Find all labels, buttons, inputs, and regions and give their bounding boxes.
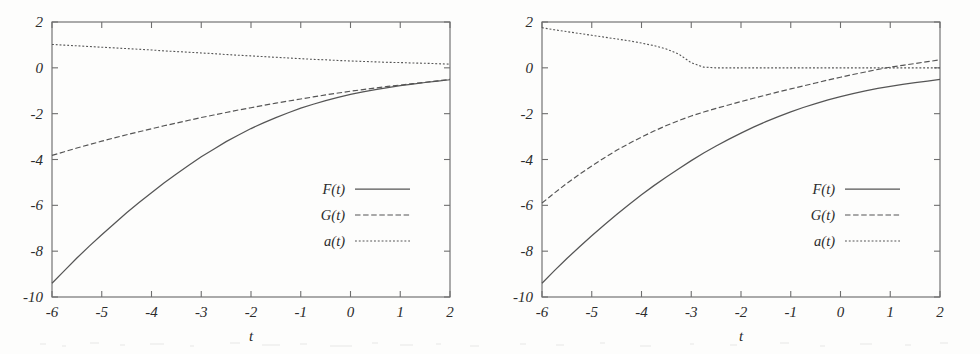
x-tick-label: -4 [145, 304, 158, 320]
x-tick-label: -2 [245, 304, 258, 320]
x-tick-label: 0 [347, 304, 355, 320]
y-tick-label: -8 [31, 243, 44, 259]
y-tick-label: -2 [31, 106, 44, 122]
x-tick-label: -2 [735, 304, 748, 320]
chart-panel-right: -6-5-4-3-2-101220-2-4-6-8-10tF(t)G(t)a(t… [490, 0, 980, 354]
curve-Gt [542, 60, 940, 203]
y-tick-label: -8 [521, 243, 534, 259]
y-tick-label: 0 [526, 60, 534, 76]
plot-right: -6-5-4-3-2-101220-2-4-6-8-10tF(t)G(t)a(t… [490, 0, 980, 354]
y-tick-label: -10 [23, 289, 43, 305]
x-tick-label: 2 [446, 304, 454, 320]
x-tick-label: -3 [195, 304, 208, 320]
x-tick-label: -6 [46, 304, 59, 320]
legend-label-Ft: F(t) [811, 181, 835, 198]
plot-frame [52, 22, 450, 297]
y-tick-label: -6 [521, 197, 534, 213]
x-tick-label: 1 [887, 304, 895, 320]
legend-label-Ft: F(t) [321, 181, 345, 198]
x-tick-label: -1 [785, 304, 798, 320]
x-tick-label: -3 [685, 304, 698, 320]
curve-Gt [52, 79, 450, 155]
y-tick-label: -2 [521, 106, 534, 122]
x-tick-label: 1 [397, 304, 405, 320]
curve-at [542, 28, 940, 68]
curve-at [52, 44, 450, 64]
y-tick-label: 2 [526, 14, 534, 30]
x-tick-label: -5 [586, 304, 599, 320]
x-tick-label: 0 [837, 304, 845, 320]
x-tick-label: -1 [295, 304, 308, 320]
scan-artifact-band [0, 334, 980, 354]
y-tick-label: -6 [31, 197, 44, 213]
legend-label-at: a(t) [814, 233, 835, 250]
plot-left: -6-5-4-3-2-101220-2-4-6-8-10tF(t)G(t)a(t… [0, 0, 490, 354]
y-tick-label: -10 [513, 289, 533, 305]
legend-label-Gt: G(t) [321, 207, 345, 224]
x-tick-label: -6 [536, 304, 549, 320]
curve-Ft [542, 79, 940, 283]
chart-panel-left: -6-5-4-3-2-101220-2-4-6-8-10tF(t)G(t)a(t… [0, 0, 490, 354]
two-panel-figure: -6-5-4-3-2-101220-2-4-6-8-10tF(t)G(t)a(t… [0, 0, 980, 354]
y-tick-label: 2 [36, 14, 44, 30]
y-tick-label: 0 [36, 60, 44, 76]
y-tick-label: -4 [521, 152, 534, 168]
legend-label-at: a(t) [324, 233, 345, 250]
y-tick-label: -4 [31, 152, 44, 168]
x-tick-label: 2 [936, 304, 944, 320]
legend-label-Gt: G(t) [811, 207, 835, 224]
curve-Ft [52, 80, 450, 284]
x-tick-label: -4 [635, 304, 648, 320]
x-tick-label: -5 [96, 304, 109, 320]
